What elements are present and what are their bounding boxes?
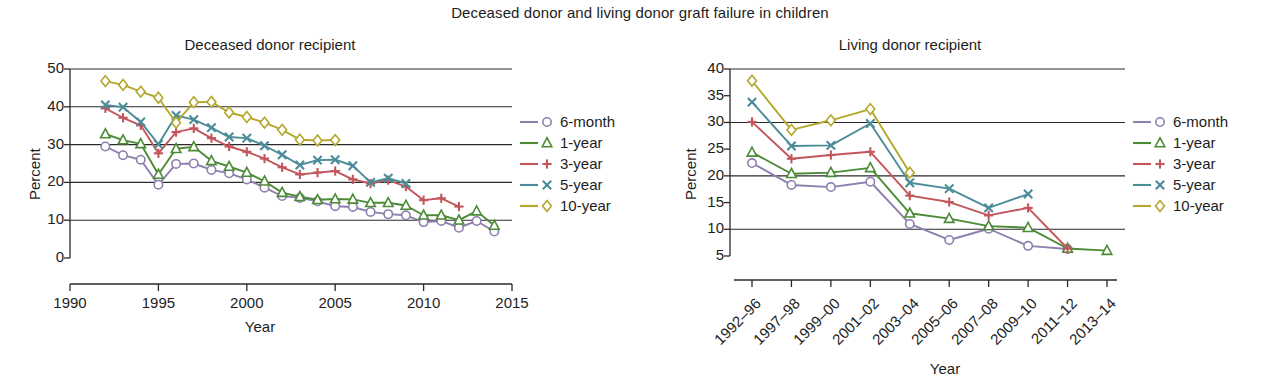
circle-marker — [101, 142, 109, 150]
legend-label: 6-month — [560, 114, 615, 129]
diamond-marker — [242, 112, 251, 123]
circle-marker — [472, 217, 480, 225]
data-point-plus — [313, 168, 322, 177]
panel-living-donor-recipient: Living donor recipient Percent Year 6-mo… — [660, 0, 1280, 391]
data-point-circle — [906, 220, 914, 228]
legend-item-6-month[interactable]: 6-month — [1132, 111, 1228, 132]
circle-marker — [172, 160, 180, 168]
data-point-circle — [402, 211, 410, 219]
circle-marker — [455, 224, 463, 232]
data-point-circle — [1024, 242, 1032, 250]
data-point-circle — [119, 151, 127, 159]
data-point-circle — [748, 159, 756, 167]
data-point-circle — [455, 224, 463, 232]
data-point-diamond — [1156, 200, 1165, 211]
series-10-year — [101, 76, 340, 146]
data-point-plus — [225, 142, 234, 151]
data-point-circle — [137, 156, 145, 164]
legend-living: 6-month1-year3-year5-year10-year — [1132, 111, 1228, 216]
legend-swatch-circle-icon — [1132, 115, 1170, 129]
y-tick-label-15: 15 — [680, 193, 724, 210]
circle-marker — [207, 166, 215, 174]
data-point-diamond — [207, 96, 216, 107]
x-tick-label-2005: 2005 — [305, 294, 365, 311]
data-point-plus — [189, 124, 198, 133]
data-point-circle — [101, 142, 109, 150]
data-point-diamond — [295, 134, 304, 145]
data-point-circle — [1156, 117, 1164, 125]
data-point-plus — [826, 150, 835, 159]
legend-item-3-year[interactable]: 3-year — [519, 153, 615, 174]
circle-marker — [866, 178, 874, 186]
data-point-triangle — [866, 163, 876, 172]
diamond-marker — [260, 117, 269, 128]
y-tick-label-40: 40 — [680, 59, 724, 76]
y-tick-label-30: 30 — [680, 112, 724, 129]
data-point-triangle — [101, 129, 111, 138]
circle-marker — [154, 180, 162, 188]
data-point-diamond — [260, 117, 269, 128]
legend-item-10-year[interactable]: 10-year — [519, 195, 615, 216]
circle-marker — [119, 151, 127, 159]
data-point-diamond — [826, 115, 835, 126]
diamond-marker — [543, 200, 552, 211]
data-point-circle — [172, 160, 180, 168]
legend-item-5-year[interactable]: 5-year — [519, 174, 615, 195]
data-point-triangle — [189, 142, 199, 151]
legend-label: 10-year — [560, 198, 611, 213]
legend-label: 1-year — [1173, 135, 1216, 150]
circle-marker — [827, 183, 835, 191]
data-point-plus — [437, 194, 446, 203]
legend-swatch-circle-icon — [519, 115, 557, 129]
data-point-circle — [866, 178, 874, 186]
series-6-month — [101, 142, 498, 235]
legend-item-5-year[interactable]: 5-year — [1132, 174, 1228, 195]
legend-label: 5-year — [560, 177, 603, 192]
data-point-circle — [154, 180, 162, 188]
data-point-plus — [542, 159, 551, 168]
data-point-x — [260, 142, 268, 150]
data-point-circle — [472, 217, 480, 225]
series-line — [752, 152, 1107, 250]
triangle-marker — [277, 187, 287, 196]
circle-marker — [906, 220, 914, 228]
legend-deceased: 6-month1-year3-year5-year10-year — [519, 111, 615, 216]
triangle-marker — [189, 142, 199, 151]
y-tick-label-35: 35 — [680, 86, 724, 103]
x-tick-label-1990: 1990 — [40, 294, 100, 311]
y-tick-label-40: 40 — [20, 97, 64, 114]
data-point-plus — [260, 154, 269, 163]
circle-marker — [349, 203, 357, 211]
legend-item-3-year[interactable]: 3-year — [1132, 153, 1228, 174]
legend-item-10-year[interactable]: 10-year — [1132, 195, 1228, 216]
x-tick-label-2000: 2000 — [217, 294, 277, 311]
data-point-x — [866, 119, 874, 127]
data-point-diamond — [119, 79, 128, 90]
data-point-x — [543, 180, 551, 188]
circle-marker — [1024, 242, 1032, 250]
diamond-marker — [826, 115, 835, 126]
data-point-plus — [118, 113, 127, 122]
circle-marker — [384, 210, 392, 218]
x-tick-label-1995: 1995 — [128, 294, 188, 311]
legend-swatch-diamond-icon — [1132, 199, 1170, 213]
diamond-marker — [136, 86, 145, 97]
y-tick-label-50: 50 — [20, 59, 64, 76]
legend-item-6-month[interactable]: 6-month — [519, 111, 615, 132]
data-point-plus — [278, 163, 287, 172]
circle-marker — [137, 156, 145, 164]
diamond-marker — [119, 79, 128, 90]
legend-item-1-year[interactable]: 1-year — [1132, 132, 1228, 153]
data-point-circle — [207, 166, 215, 174]
data-point-diamond — [101, 76, 110, 87]
y-tick-label-20: 20 — [680, 166, 724, 183]
legend-swatch-triangle-icon — [519, 136, 557, 150]
data-point-circle — [787, 181, 795, 189]
legend-item-1-year[interactable]: 1-year — [519, 132, 615, 153]
data-point-diamond — [331, 135, 340, 146]
x-tick-label-2015: 2015 — [482, 294, 542, 311]
data-point-circle — [190, 159, 198, 167]
figure-root: Deceased donor and living donor graft fa… — [0, 0, 1280, 391]
y-tick-label-0: 0 — [20, 248, 64, 265]
y-tick-label-5: 5 — [680, 246, 724, 263]
